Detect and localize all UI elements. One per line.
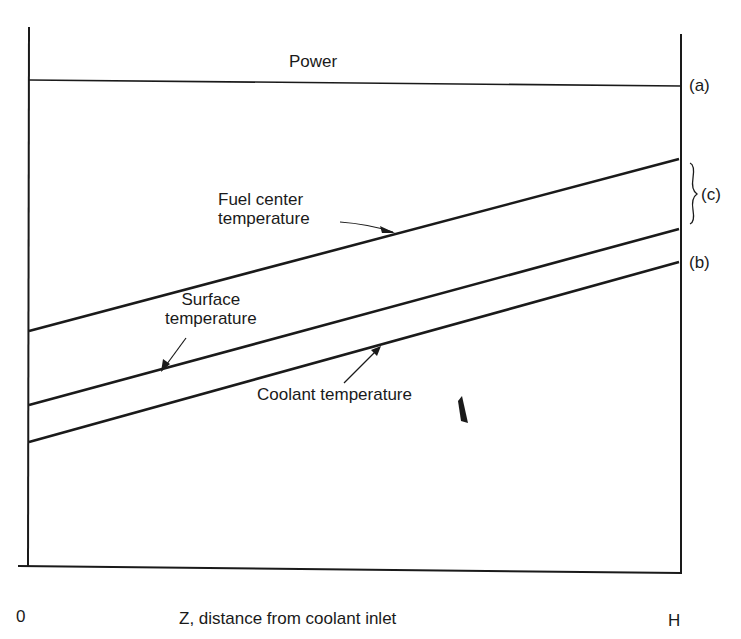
- coolant-label: Coolant temperature: [257, 385, 412, 404]
- left-axis: [28, 27, 29, 567]
- power-label: Power: [289, 52, 337, 71]
- marker-b-label: (b): [689, 253, 710, 272]
- surface-label-line1: Surface: [165, 290, 257, 309]
- brace-c-icon: [690, 163, 697, 224]
- fuel-center-label-line1: Fuel center: [218, 190, 310, 209]
- surface-temperature-line: [29, 229, 679, 405]
- surface-label-line2: temperature: [165, 309, 257, 328]
- x-origin-label: 0: [16, 607, 25, 626]
- surface-label: Surface temperature: [165, 290, 257, 328]
- power-line: [29, 80, 681, 86]
- diagram-canvas: [0, 0, 741, 639]
- coolant-arrow-icon: [344, 346, 381, 383]
- fuel-center-label: Fuel center temperature: [218, 190, 310, 228]
- marker-c-label: (c): [701, 185, 721, 204]
- fuel-center-arrow-icon: [340, 222, 395, 233]
- coolant-temperature-line: [29, 262, 679, 442]
- x-axis-title: Z, distance from coolant inlet: [179, 609, 396, 628]
- x-end-label: H: [668, 611, 680, 630]
- marker-a-label: (a): [689, 76, 710, 95]
- fuel-center-temperature-line: [29, 159, 679, 331]
- scan-mark-icon: [458, 396, 468, 423]
- bottom-axis: [18, 566, 681, 573]
- fuel-center-label-line2: temperature: [218, 209, 310, 228]
